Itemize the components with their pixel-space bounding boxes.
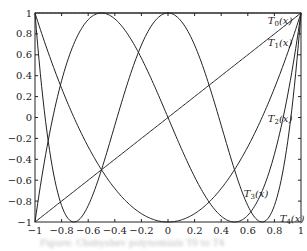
y-tick-label: −0.4 bbox=[8, 154, 32, 165]
curve-label-t3x: T3(x) bbox=[244, 188, 269, 201]
y-tick-label: 0.4 bbox=[16, 70, 32, 81]
x-tick-label: 1 bbox=[298, 225, 304, 236]
y-tick-label: −0.8 bbox=[8, 196, 32, 207]
y-tick-label: 0.6 bbox=[16, 49, 32, 60]
y-tick-label: 0.2 bbox=[16, 91, 32, 102]
curve-label-t4x: T4(x) bbox=[280, 213, 305, 226]
curve-label-t0x: T0(x) bbox=[268, 15, 293, 28]
y-tick-label: 0.8 bbox=[16, 28, 32, 39]
y-tick-label: −0.6 bbox=[8, 175, 32, 186]
x-tick-label: 0 bbox=[165, 225, 171, 236]
x-tick-label: 0.8 bbox=[266, 225, 282, 236]
y-tick-label: −0.2 bbox=[8, 133, 32, 144]
x-tick-label: −0.8 bbox=[49, 225, 73, 236]
figure-caption: Figure: Chebyshev polynomials T0 to T4 bbox=[40, 238, 240, 248]
x-tick-label: −0.4 bbox=[103, 225, 127, 236]
curve-label-t2x: T2(x) bbox=[268, 113, 293, 126]
x-tick-label: −0.2 bbox=[129, 225, 153, 236]
y-tick-label: 1 bbox=[26, 8, 32, 19]
chebyshev-chart: −1−0.8−0.6−0.4−0.200.20.40.60.81−1−0.8−0… bbox=[0, 0, 307, 251]
y-tick-label: −1 bbox=[17, 217, 32, 228]
x-tick-label: −0.6 bbox=[76, 225, 100, 236]
x-tick-label: 0.6 bbox=[240, 225, 256, 236]
curve-labels: T0(x)T1(x)T2(x)T3(x)T4(x) bbox=[244, 15, 305, 226]
x-tick-label: 0.4 bbox=[213, 225, 229, 236]
x-tick-label: 0.2 bbox=[187, 225, 203, 236]
y-tick-label: 0 bbox=[26, 112, 32, 123]
